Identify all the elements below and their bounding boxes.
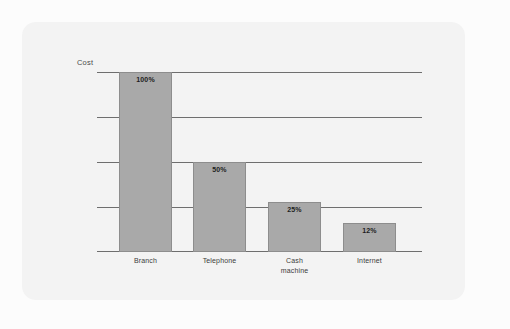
bar-value-branch: 100%: [120, 76, 171, 83]
chart-card: Cost 100% Branch: [22, 22, 465, 300]
bar-branch[interactable]: 100%: [119, 72, 172, 252]
bar-label-internet-line-1: Internet: [325, 256, 414, 266]
bar-internet[interactable]: 12%: [343, 223, 396, 252]
bar-group: 100% Branch 50% Telephone: [97, 72, 422, 252]
bar-value-internet: 12%: [344, 227, 395, 234]
bar-slot-branch: 100% Branch: [119, 72, 172, 252]
bar-slot-telephone: 50% Telephone: [193, 72, 246, 252]
bar-telephone[interactable]: 50%: [193, 162, 246, 252]
bar-label-internet: Internet: [325, 256, 414, 266]
chart-screenshot: Cost 100% Branch: [0, 0, 510, 329]
bar-label-cash-machine-line-2: machine: [250, 266, 339, 276]
plot-area: 100% Branch 50% Telephone: [97, 72, 422, 252]
bar-slot-internet: 12% Internet: [343, 72, 396, 252]
bar-cash-machine[interactable]: 25%: [268, 202, 321, 252]
bar-slot-cash-machine: 25% Cash machine: [268, 72, 321, 252]
bar-value-cash-machine: 25%: [269, 206, 320, 213]
bar-value-telephone: 50%: [194, 166, 245, 173]
y-axis-label: Cost: [77, 58, 93, 67]
